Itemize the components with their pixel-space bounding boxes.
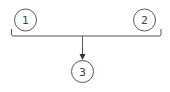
merge-diagram: 1 2 3 <box>0 0 170 92</box>
node-1: 1 <box>15 9 37 31</box>
node-2: 2 <box>134 9 156 31</box>
arrowhead-icon <box>80 54 86 60</box>
node-3: 3 <box>72 61 94 83</box>
node-3-label: 3 <box>79 66 86 79</box>
merge-bracket <box>12 29 162 36</box>
node-1-label: 1 <box>22 14 29 27</box>
node-2-label: 2 <box>141 14 148 27</box>
